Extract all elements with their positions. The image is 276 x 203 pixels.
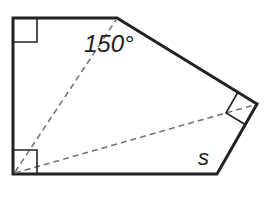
diagonal-to-right-vertex bbox=[15, 105, 254, 173]
side-label: s bbox=[198, 145, 209, 170]
angle-label: 150° bbox=[84, 30, 134, 57]
pentagon-outline bbox=[13, 18, 257, 174]
right-angle-marker-top-left bbox=[13, 18, 37, 42]
pentagon-diagram: 150° s bbox=[0, 0, 276, 203]
